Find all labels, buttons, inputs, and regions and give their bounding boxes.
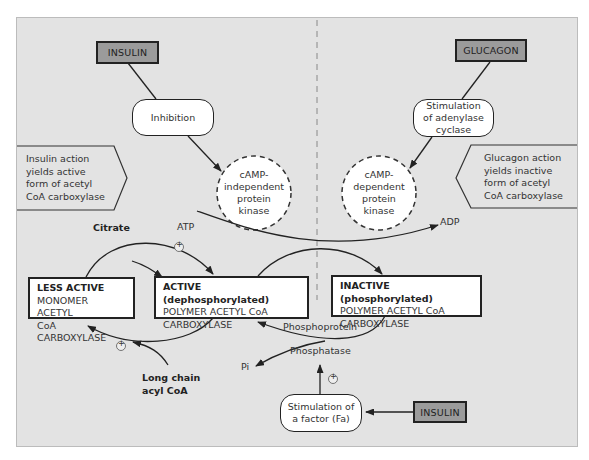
camp-independent-kinase: cAMP- independent protein kinase [217,156,291,230]
adenylase-line-1: Stimulation [426,100,480,112]
factor-line-1: Stimulation of [288,401,355,413]
active-line-1: POLYMER ACETYL CoA [163,306,300,319]
long-chain-line-1: Long chain [142,372,200,385]
pathway-arrows [0,0,589,460]
insulin-callout-line-4: CoA carboxylase [26,191,118,204]
adenylase-stimulation-node: Stimulation of adenylase cyclase [413,99,494,137]
camp-dependent-kinase: cAMP- dependent protein kinase [342,156,416,230]
kinase-ind-line-3: protein [237,193,271,205]
citrate-label: Citrate [93,222,130,235]
kinase-ind-line-4: kinase [239,205,270,217]
kinase-dep-line-1: cAMP- [365,169,394,181]
glucagon-callout-line-4: CoA carboxylase [484,190,576,203]
less-active-line-1: MONOMER ACETYL [37,295,126,320]
active-enzyme-box: ACTIVE (dephosphorylated) POLYMER ACETYL… [154,276,309,319]
insulin-callout-line-1: Insulin action [26,153,118,166]
phosphoprotein-label: Phosphoprotein [283,321,357,332]
active-line-2: CARBOXYLASE [163,319,300,332]
inhibition-label: Inhibition [151,112,195,124]
factor-plus-icon: + [330,372,337,381]
kinase-dep-line-4: kinase [364,205,395,217]
glucagon-label: GLUCAGON [463,45,519,56]
long-chain-acyl-coa-label: Long chain acyl CoA [142,372,200,397]
insulin-top-box: INSULIN [96,41,159,64]
long-chain-line-2: acyl CoA [142,385,200,398]
inactive-line-2: CARBOXYLASE [340,318,473,331]
less-active-line-2: CoA CARBOXYLASE [37,320,126,345]
insulin-callout-line-3: form of acetyl [26,178,118,191]
less-active-heading: LESS ACTIVE [37,282,126,295]
glucagon-callout-line-1: Glucagon action [484,152,576,165]
factor-stimulation-node: Stimulation of a factor (Fa) [280,394,362,432]
less-active-enzyme-box: LESS ACTIVE MONOMER ACETYL CoA CARBOXYLA… [28,277,135,319]
insulin-bottom-box: INSULIN [413,401,467,423]
active-heading: ACTIVE (dephosphorylated) [163,281,300,306]
adenylase-line-3: cyclase [436,124,471,136]
inactive-enzyme-box: INACTIVE (phosphorylated) POLYMER ACETYL… [331,275,482,317]
inactive-line-1: POLYMER ACETYL CoA [340,305,473,318]
inhibition-node: Inhibition [132,99,214,136]
factor-line-2: a factor (Fa) [292,413,350,425]
kinase-dep-line-2: dependent [353,181,404,193]
adenylase-line-2: of adenylase [423,112,484,124]
phosphatase-label: Phosphatase [290,345,351,356]
atp-label: ATP [177,221,194,232]
insulin-bottom-label: INSULIN [420,407,460,418]
kinase-ind-line-2: independent [224,181,284,193]
pi-label: Pi [241,361,249,372]
inactive-heading: INACTIVE (phosphorylated) [340,280,473,305]
kinase-ind-line-1: cAMP- [240,169,269,181]
glucagon-box: GLUCAGON [455,39,527,62]
glucagon-callout-line-2: yields inactive [484,165,576,178]
citrate-plus-icon: + [176,240,183,249]
glucagon-callout: Glucagon action yields inactive form of … [484,152,576,202]
adp-label: ADP [440,216,460,227]
insulin-callout-line-2: yields active [26,166,118,179]
insulin-top-label: INSULIN [108,47,148,58]
glucagon-callout-line-3: form of acetyl [484,177,576,190]
kinase-dep-line-3: protein [362,193,396,205]
insulin-callout: Insulin action yields active form of ace… [26,153,118,203]
